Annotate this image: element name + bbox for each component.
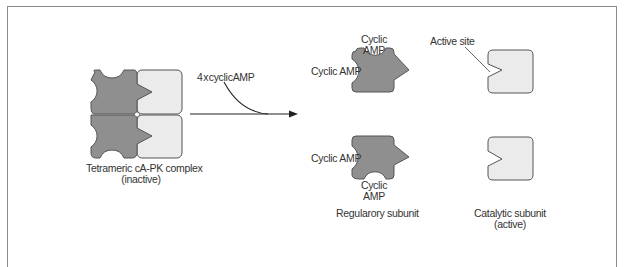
complex-label: Tetrameric cA-PK complex (inactive) — [86, 163, 196, 185]
catalytic-subunit-top — [488, 50, 533, 93]
camp-label-top-left: Cyclic AMP — [311, 66, 361, 77]
catalytic-subunit-label: Catalytic subunit (active) — [470, 208, 550, 230]
camp-label-bottom-lower: Cyclic AMP — [358, 180, 390, 202]
arrow-label: 4 x cyclic AMP — [197, 72, 254, 83]
camp-label-top-upper: Cyclic AMP — [358, 34, 390, 56]
complex-junction — [135, 112, 140, 117]
reaction-arrowhead-icon — [289, 111, 298, 118]
active-site-label: Active site — [430, 36, 475, 47]
camp-entry-curve — [224, 82, 268, 114]
camp-label-bottom-left: Cyclic AMP — [311, 153, 361, 164]
catalytic-subunit-bottom — [488, 137, 533, 180]
regulatory-subunit-label: Regularory subunit — [336, 208, 419, 219]
active-site-pointer — [465, 47, 490, 72]
